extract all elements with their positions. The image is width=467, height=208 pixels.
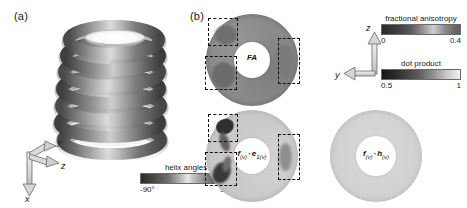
fa-roi-box-upper-left: [208, 18, 238, 46]
fractional-anisotropy-colorbar-ticks: 0 0.4: [381, 36, 461, 46]
dot-product-tick-max: 1: [457, 81, 461, 91]
figure-canvas: (a): [0, 0, 467, 208]
helix-angles-tick-min: -90°: [140, 185, 155, 195]
axis-label-x-panel-a: x: [25, 194, 30, 204]
f-dot-h-map: f(v)·h(v): [330, 110, 422, 202]
fa-map-label: FA: [232, 53, 272, 62]
panel-label-a: (a): [14, 10, 28, 22]
dot-product-colorbar-title: dot product: [381, 59, 461, 69]
fractional-anisotropy-colorbar: fractional anisotropy 0 0.4: [381, 14, 461, 46]
f-dot-h-map-label-text: f(v)·h(v): [363, 149, 389, 158]
dot-product-colorbar-ticks: 0.5 1: [381, 81, 461, 91]
f-dot-e1-map-label-text: f(v)·e1(v): [237, 149, 266, 158]
axis-triad-panel-a: y z x: [14, 138, 78, 204]
f-dot-e1-map: f(v)·e1(v): [206, 110, 298, 202]
f-dot-e1-roi-box-right: [278, 134, 300, 180]
dot-product-colorbar: dot product 0.5 1: [381, 59, 461, 91]
dot-product-tick-min: 0.5: [381, 81, 392, 91]
fractional-anisotropy-tick-max: 0.4: [450, 36, 461, 46]
f-dot-e1-roi-box-lower-left: [205, 152, 237, 186]
helix-coil-turns: [60, 26, 161, 156]
panel-label-b: (b): [190, 10, 204, 22]
f-dot-e1-roi-box-upper-left: [208, 114, 238, 142]
fa-map: FA: [206, 14, 298, 106]
dot-product-colorbar-gradient: [381, 69, 461, 80]
fa-roi-box-lower-left: [205, 56, 237, 90]
fractional-anisotropy-colorbar-title: fractional anisotropy: [381, 14, 461, 24]
f-dot-h-map-label: f(v)·h(v): [350, 149, 402, 160]
axis-label-y-panel-b: y: [335, 70, 340, 80]
fa-map-label-text: FA: [247, 53, 257, 62]
axis-label-z-panel-a: z: [61, 161, 66, 171]
fa-roi-box-right: [278, 38, 300, 84]
axis-label-z-panel-b: z: [366, 23, 371, 33]
fractional-anisotropy-tick-min: 0: [381, 36, 385, 46]
fractional-anisotropy-colorbar-gradient: [381, 24, 461, 35]
axis-label-y-panel-a: y: [57, 137, 62, 147]
axis-triad-a-svg: [14, 138, 78, 204]
